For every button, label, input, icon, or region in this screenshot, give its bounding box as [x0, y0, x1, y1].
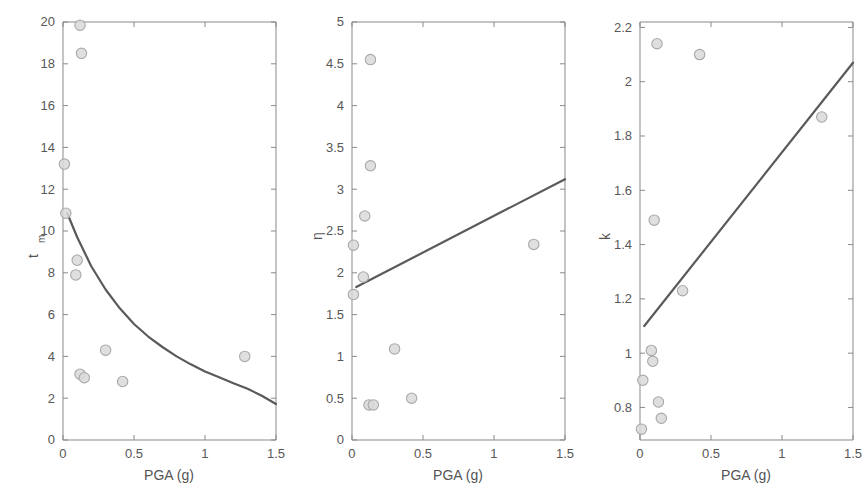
x-ticklabels-eta: 00.511.5 [348, 446, 574, 461]
y-tick-label: 3.5 [326, 140, 344, 155]
data-point-marker[interactable] [59, 159, 69, 169]
scatter-plot-tm[interactable]: 02468101214161820 00.511.5 t m PGA (g) [0, 0, 289, 494]
data-point-marker[interactable] [636, 424, 646, 434]
y-tick-label: 0 [336, 432, 343, 447]
data-point-marker[interactable] [678, 286, 688, 296]
y-ticks-tm [63, 22, 276, 440]
data-point-marker[interactable] [389, 344, 399, 354]
y-tick-label: 18 [41, 56, 55, 71]
x-ticks-tm [63, 22, 276, 440]
data-point-marker[interactable] [817, 112, 827, 122]
axis-frame-k [640, 22, 853, 440]
data-point-marker[interactable] [348, 240, 358, 250]
data-point-marker[interactable] [71, 270, 81, 280]
data-point-marker[interactable] [656, 413, 666, 423]
x-tick-label: 0 [637, 446, 644, 461]
y-ticklabels-k: 0.811.21.41.61.822.2 [614, 20, 632, 415]
data-point-marker[interactable] [406, 393, 416, 403]
y-tick-label: 4 [336, 98, 343, 113]
data-point-marker[interactable] [646, 345, 656, 355]
x-tick-label: 0.5 [414, 446, 432, 461]
y-tick-label: 1.8 [614, 128, 632, 143]
y-ticks-k [640, 27, 853, 407]
y-tick-label: 1.4 [614, 237, 632, 252]
x-ticklabels-k: 00.511.5 [637, 446, 863, 461]
y-axis-label-sub-tm: m [36, 235, 47, 243]
x-axis-label-eta: PGA (g) [433, 467, 483, 483]
y-tick-label: 8 [48, 265, 55, 280]
data-point-marker[interactable] [695, 49, 705, 59]
y-tick-label: 5 [336, 14, 343, 29]
data-point-marker[interactable] [240, 351, 250, 361]
y-tick-label: 3 [336, 182, 343, 197]
figure-container: 02468101214161820 00.511.5 t m PGA (g) 0… [0, 0, 866, 494]
x-tick-label: 1.5 [556, 446, 574, 461]
regression-line [644, 63, 853, 326]
data-points-tm[interactable] [59, 20, 250, 387]
data-point-marker[interactable] [75, 20, 85, 30]
y-tick-label: 0 [48, 432, 55, 447]
data-point-marker[interactable] [100, 345, 110, 355]
data-point-marker[interactable] [76, 48, 86, 58]
y-tick-label: 16 [41, 98, 55, 113]
y-axis-title-k: k [597, 232, 613, 240]
y-tick-label: 4 [48, 349, 55, 364]
data-point-marker[interactable] [528, 239, 538, 249]
axis-frame-eta [352, 22, 565, 440]
y-ticklabels-tm: 02468101214161820 [41, 14, 55, 447]
y-tick-label: 0.8 [614, 400, 632, 415]
scatter-plot-eta[interactable]: 00.511.522.533.544.55 00.511.5 η PGA (g) [289, 0, 578, 494]
x-axis-label-k: PGA (g) [721, 467, 771, 483]
y-tick-label: 4.5 [326, 56, 344, 71]
data-points-eta[interactable] [348, 54, 539, 410]
y-axis-title-tm: t m [25, 235, 47, 258]
x-tick-label: 0.5 [702, 446, 720, 461]
y-tick-label: 20 [41, 14, 55, 29]
data-point-marker[interactable] [79, 373, 89, 383]
y-tick-label: 1 [625, 346, 632, 361]
data-points-k[interactable] [636, 39, 827, 435]
y-tick-label: 12 [41, 182, 55, 197]
data-point-marker[interactable] [61, 208, 71, 218]
data-point-marker[interactable] [365, 161, 375, 171]
y-tick-label: 6 [48, 307, 55, 322]
y-tick-label: 2 [336, 265, 343, 280]
data-point-marker[interactable] [648, 356, 658, 366]
y-axis-label-eta: η [309, 232, 325, 240]
plot-axes-eta [352, 22, 565, 440]
y-tick-label: 2 [48, 391, 55, 406]
data-point-marker[interactable] [649, 215, 659, 225]
y-tick-label: 2 [625, 74, 632, 89]
data-point-marker[interactable] [652, 39, 662, 49]
x-tick-label: 1.5 [844, 446, 862, 461]
x-ticks-k [640, 22, 853, 440]
y-tick-label: 1.5 [326, 307, 344, 322]
data-point-marker[interactable] [368, 400, 378, 410]
y-tick-label: 14 [41, 140, 55, 155]
x-ticks-eta [352, 22, 565, 440]
x-tick-label: 0 [59, 446, 66, 461]
y-axis-label-tm: t [25, 254, 41, 258]
y-tick-label: 1.6 [614, 183, 632, 198]
fit-line-k [644, 63, 853, 326]
data-point-marker[interactable] [117, 376, 127, 386]
data-point-marker[interactable] [358, 272, 368, 282]
x-tick-label: 1 [779, 446, 786, 461]
data-point-marker[interactable] [638, 375, 648, 385]
data-point-marker[interactable] [365, 54, 375, 64]
data-point-marker[interactable] [653, 397, 663, 407]
x-tick-label: 0.5 [125, 446, 143, 461]
scatter-plot-k[interactable]: 0.811.21.41.61.822.2 00.511.5 k PGA (g) [577, 0, 866, 494]
x-axis-label-tm: PGA (g) [144, 467, 194, 483]
data-point-marker[interactable] [359, 211, 369, 221]
y-ticks-eta [352, 22, 565, 440]
data-point-marker[interactable] [72, 255, 82, 265]
x-tick-label: 1 [201, 446, 208, 461]
x-tick-label: 1.5 [267, 446, 285, 461]
y-axis-label-k: k [597, 232, 613, 240]
x-ticklabels-tm: 00.511.5 [59, 446, 285, 461]
y-axis-title-eta: η [309, 232, 325, 240]
data-point-marker[interactable] [348, 289, 358, 299]
y-ticklabels-eta: 00.511.522.533.544.55 [326, 14, 344, 447]
x-tick-label: 1 [490, 446, 497, 461]
